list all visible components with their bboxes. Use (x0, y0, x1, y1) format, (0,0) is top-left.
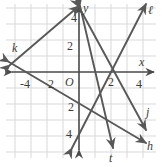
line-label-k: k (12, 42, 17, 54)
line-label-j: j (146, 106, 149, 118)
x-axis-label: x (139, 56, 144, 68)
x-tick-label-2neg: 2 (48, 78, 54, 90)
coordinate-graph-figure: -4 2 2 4 4 2 2 4 O x y k ℓ j h t (0, 0, 162, 167)
y-tick-label-neg4: 4 (66, 128, 72, 140)
x-tick-label-4: 4 (136, 78, 142, 90)
line-label-h: h (147, 140, 153, 152)
line-label-t: t (109, 152, 112, 164)
line-h (9, 62, 146, 143)
origin-label: O (65, 76, 74, 88)
line-label-l: ℓ (148, 4, 153, 16)
x-tick-label-neg4: -4 (20, 78, 30, 90)
plotted-lines (9, 4, 146, 148)
y-tick-label-2: 2 (67, 40, 73, 52)
x-tick-label-2: 2 (108, 76, 114, 88)
y-axis-label: y (83, 2, 88, 14)
y-tick-label-neg2: 2 (68, 101, 74, 113)
y-tick-label-4: 4 (71, 12, 77, 24)
